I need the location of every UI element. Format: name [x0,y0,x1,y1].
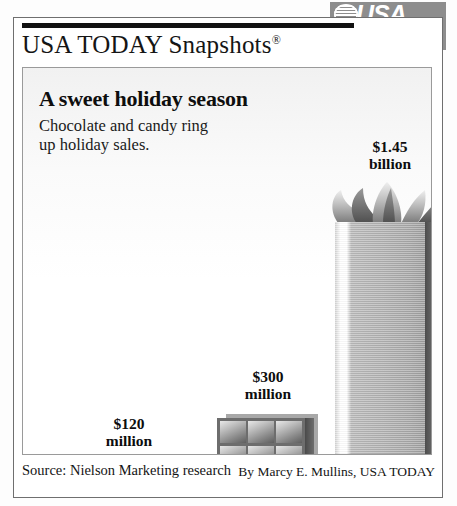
gift-column-side [425,222,432,455]
chocolate-square [276,421,302,443]
chocolate-square [248,421,274,443]
bar-chocolates: $300 million [209,368,327,455]
chocolate-square [220,421,246,443]
bar-value-chocolates: $300 million [209,368,327,403]
bar-value-all-candy: $1.45 billion [323,138,432,173]
page-title-text: USA TODAY Snapshots [22,31,272,58]
chocolate-bar-graphic [217,418,305,455]
header-rule [22,23,354,28]
bar-candy-canes: $120 million [65,415,193,455]
infographic-frame: USA TODAY Snapshots® A sweet holiday sea… [13,17,443,498]
chocolate-square [276,446,302,455]
chart-panel: A sweet holiday season Chocolate and can… [22,67,432,455]
registered-trademark-mark: ® [272,33,281,47]
page-title: USA TODAY Snapshots® [22,31,281,59]
gift-wrap-texture [335,222,425,455]
bar-value-candy-canes: $120 million [65,415,193,450]
chocolate-square [248,446,274,455]
chocolate-square [220,446,246,455]
snapshot-infographic: USA TODAY USA TODAY Snapshots® A sweet h… [0,0,457,506]
source-note: Source: Nielson Marketing research [22,462,231,479]
bar-all-candy: $1.45 billion [323,138,432,455]
chocolate-bar-side [305,418,314,455]
gift-column-graphic [335,222,425,455]
chart-subhead: Chocolate and candy ring up holiday sale… [39,116,208,155]
credit-note: By Marcy E. Mullins, USA TODAY [238,464,435,480]
chart-headline: A sweet holiday season [39,86,248,112]
